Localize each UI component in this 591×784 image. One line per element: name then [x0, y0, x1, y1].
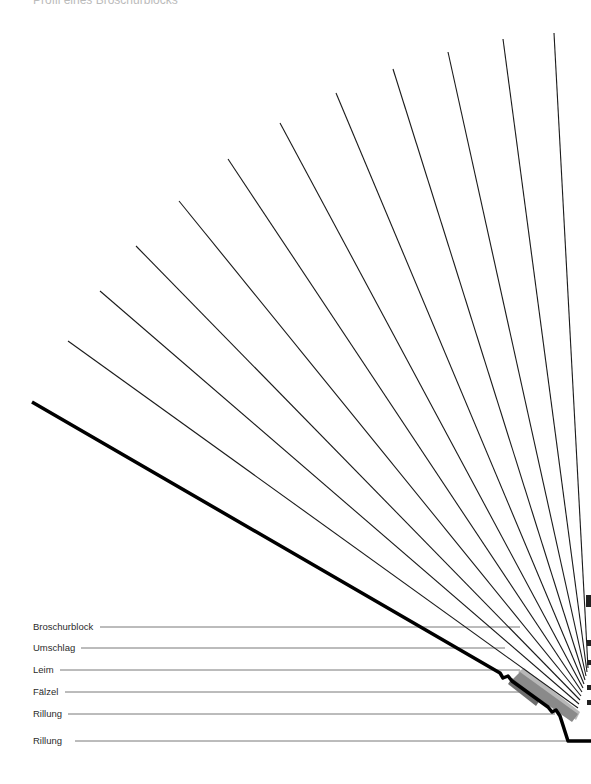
binding-diagram — [0, 0, 591, 784]
cover-outline — [32, 402, 591, 741]
label-broschurblock: Broschurblock — [33, 621, 99, 633]
label-rillung-1: Rillung — [33, 708, 68, 720]
leader-lines — [60, 627, 568, 741]
label-umschlag: Umschlag — [33, 642, 81, 654]
label-leim: Leim — [33, 664, 60, 676]
label-faelzel: Fälzel — [33, 686, 64, 698]
page-fan — [68, 33, 588, 708]
label-rillung-2: Rillung — [33, 735, 68, 747]
